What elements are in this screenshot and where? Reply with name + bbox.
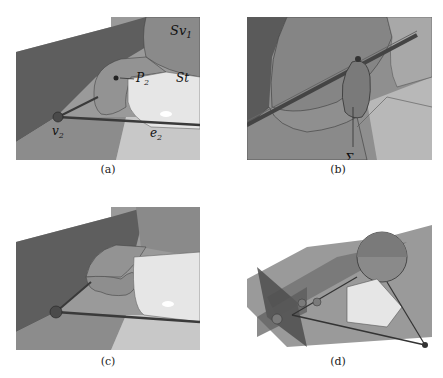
panel-d-render [247,207,432,350]
caption-d: (d) [318,355,358,368]
panel-a: Sv1 P2 St v2 e2 [16,17,200,160]
label-st: St [176,71,189,85]
panel-c-render [16,207,200,350]
panel-d [247,207,432,350]
caption-c: (c) [88,355,128,368]
caption-b: (b) [318,163,358,176]
caption-a: (a) [88,163,128,176]
panel-c [16,207,200,350]
panel-a-render: Sv1 P2 St v2 e2 [16,17,200,160]
panel-b: ΣP2 [247,17,432,160]
panel-b-render: ΣP2 [247,17,432,160]
